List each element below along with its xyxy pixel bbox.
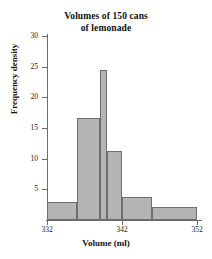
y-axis-tick-label: 5 — [14, 185, 38, 192]
histogram-bars — [47, 36, 197, 220]
x-axis-tick-label: 342 — [107, 226, 137, 234]
plot-area — [47, 36, 197, 220]
x-axis-tick-label: 332 — [32, 226, 62, 234]
y-axis-title: Frequency density — [9, 19, 19, 139]
histogram-bar — [107, 151, 122, 220]
histogram-bar — [47, 202, 77, 220]
x-axis-line — [46, 220, 202, 221]
histogram-bar — [100, 70, 108, 220]
x-axis-title: Volume (ml) — [0, 238, 212, 248]
histogram-bar — [77, 118, 100, 220]
x-axis-tick-label: 352 — [182, 226, 212, 234]
histogram-bar — [122, 197, 152, 220]
histogram-bar — [152, 207, 197, 220]
chart-title-line-1: Volumes of 150 cans — [0, 10, 212, 22]
histogram-figure: Volumes of 150 cans of lemonade 51015202… — [0, 0, 212, 259]
y-axis-tick-label: 10 — [14, 155, 38, 162]
